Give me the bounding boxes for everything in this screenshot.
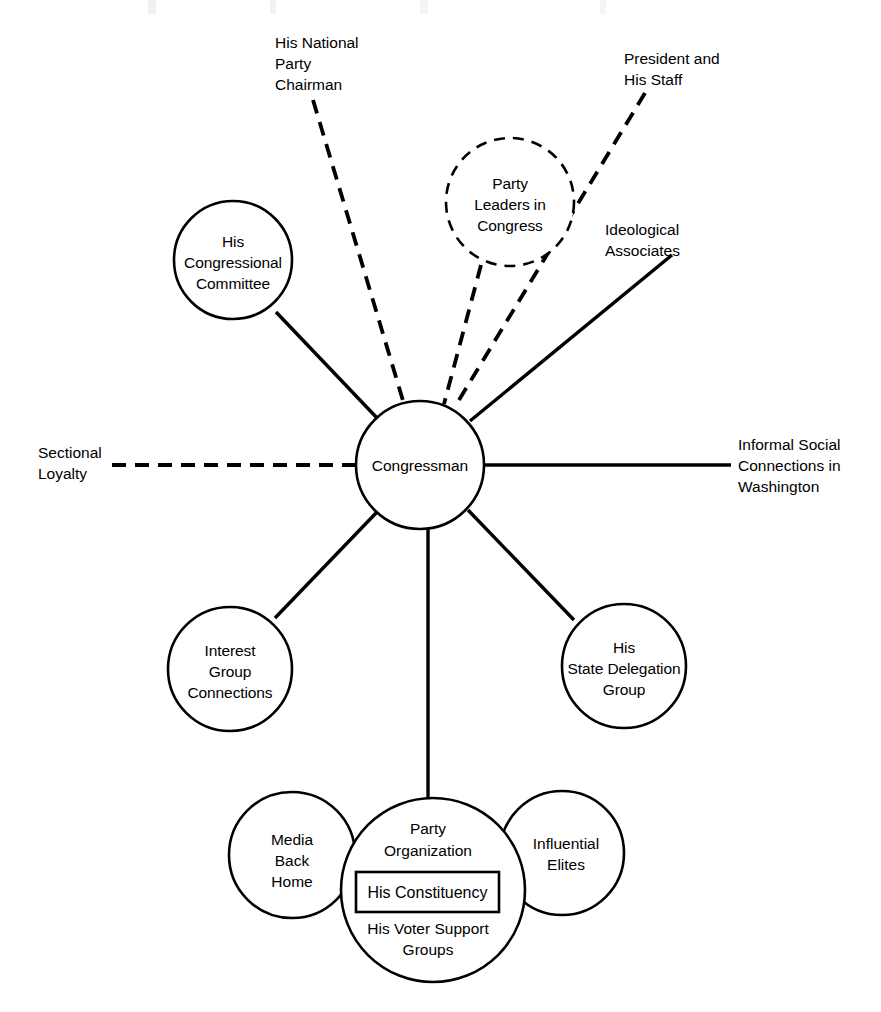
congressman-label: Congressman: [372, 457, 469, 474]
label-media-back-home: Media Back Home: [271, 831, 314, 890]
label-informal-social-connections: Informal Social Connections in Washingto…: [738, 436, 841, 495]
party-leaders-in-congress-line-2: Leaders in: [474, 196, 545, 213]
sectional-loyalty-line-1: Sectional: [38, 444, 102, 461]
his-constituency-box[interactable]: His Constituency: [356, 872, 499, 912]
informal-social-connections-line-2: Connections in: [738, 457, 841, 474]
label-president-and-his-staff: President and His Staff: [624, 50, 720, 88]
president-and-his-staff-line-1: President and: [624, 50, 720, 67]
his-state-delegation-group-line-2: State Delegation: [567, 660, 680, 677]
ideological-associates-line-1: Ideological: [605, 221, 679, 238]
interest-group-connections-line-1: Interest: [205, 642, 257, 659]
his-national-party-chairman-line-2: Party: [275, 55, 311, 72]
media-back-home-line-3: Home: [271, 873, 312, 890]
his-constituency-label: His Constituency: [367, 884, 487, 901]
ideological-associates-line-2: Associates: [605, 242, 680, 259]
his-national-party-chairman-line-3: Chairman: [275, 76, 342, 93]
informal-social-connections-line-3: Washington: [738, 478, 819, 495]
his-state-delegation-group-line-3: Group: [603, 681, 646, 698]
party-organization-line-1: Party: [410, 820, 446, 837]
label-sectional-loyalty: Sectional Loyalty: [38, 444, 102, 482]
edge-ideological-associates: [470, 255, 672, 421]
network-diagram-canvas: Media Back Home Influential Elites Party…: [0, 0, 881, 1012]
edge-party-leaders-in-congress: [444, 265, 481, 404]
his-national-party-chairman-line-1: His National: [275, 34, 359, 51]
his-voter-support-groups-line-1: His Voter Support: [367, 920, 489, 937]
his-voter-support-groups-line-2: Groups: [403, 941, 454, 958]
interest-group-connections-line-2: Group: [209, 663, 252, 680]
his-congressional-committee-line-3: Committee: [196, 275, 270, 292]
party-leaders-in-congress-line-3: Congress: [477, 217, 543, 234]
interest-group-connections-line-3: Connections: [187, 684, 272, 701]
influential-elites-line-1: Influential: [533, 835, 599, 852]
label-his-national-party-chairman: His National Party Chairman: [275, 34, 359, 93]
party-organization-line-2: Organization: [384, 842, 472, 859]
diagram-root: Media Back Home Influential Elites Party…: [0, 0, 881, 1012]
president-and-his-staff-line-2: His Staff: [624, 71, 683, 88]
his-state-delegation-group-line-1: His: [613, 639, 635, 656]
media-back-home-line-1: Media: [271, 831, 314, 848]
his-congressional-committee-line-2: Congressional: [184, 254, 282, 271]
his-congressional-committee-line-1: His: [222, 233, 244, 250]
edge-his-congressional-committee: [276, 312, 378, 419]
label-ideological-associates: Ideological Associates: [605, 221, 680, 259]
party-leaders-in-congress-line-1: Party: [492, 175, 528, 192]
media-back-home-line-2: Back: [275, 852, 310, 869]
sectional-loyalty-line-2: Loyalty: [38, 465, 87, 482]
edge-interest-group-connections: [275, 512, 377, 618]
edge-his-state-delegation-group: [468, 510, 574, 620]
influential-elites-line-2: Elites: [547, 856, 585, 873]
informal-social-connections-line-1: Informal Social: [738, 436, 841, 453]
edge-his-national-party-chairman: [313, 100, 404, 404]
